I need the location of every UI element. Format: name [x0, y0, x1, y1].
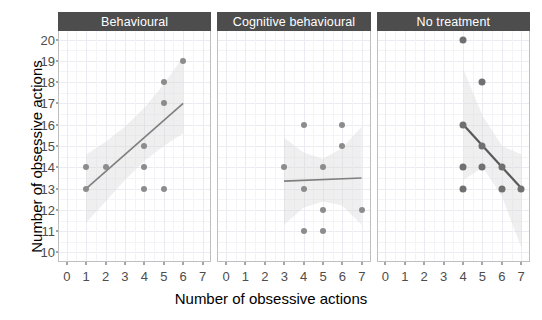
x-tick-label: 3	[121, 269, 128, 284]
facet-strip-label: No treatment	[377, 12, 530, 31]
x-tick-mark	[443, 262, 444, 265]
y-axis: 1011121314151617181920	[22, 0, 55, 320]
data-point	[518, 185, 525, 192]
y-tick-label: 15	[41, 140, 55, 153]
data-point	[359, 207, 365, 213]
x-axis-3: 01234567	[377, 262, 530, 284]
facet-strip-label: Behavioural	[58, 12, 211, 31]
x-tick-label: 4	[141, 269, 148, 284]
regression-line	[378, 31, 529, 261]
data-point	[180, 58, 186, 64]
x-tick-mark	[66, 262, 67, 265]
data-point	[460, 185, 467, 192]
x-tick-label: 2	[102, 269, 109, 284]
data-point	[301, 228, 307, 234]
y-tick-label: 17	[41, 97, 55, 110]
plot-area	[217, 31, 370, 262]
x-tick-label: 5	[319, 269, 326, 284]
data-point	[103, 164, 109, 170]
data-point	[479, 164, 486, 171]
x-tick-label: 7	[518, 269, 525, 284]
x-tick-mark	[124, 262, 125, 265]
y-tick-label: 11	[42, 225, 56, 238]
facet-strip-label: Cognitive behavioural	[217, 12, 370, 31]
x-tick-label: 7	[358, 269, 365, 284]
y-tick-label: 12	[41, 203, 55, 216]
data-point	[141, 143, 147, 149]
regression-line	[218, 31, 369, 261]
x-tick-mark	[264, 262, 265, 265]
x-tick-label: 2	[421, 269, 428, 284]
x-tick-mark	[323, 262, 324, 265]
data-point	[161, 79, 167, 85]
data-point	[339, 122, 345, 128]
facet-panels: BehaviouralCognitive behaviouralNo treat…	[58, 12, 530, 262]
x-tick-mark	[385, 262, 386, 265]
data-point	[479, 79, 486, 86]
x-axis-title: Number of obsessive actions	[0, 290, 542, 307]
x-tick-label: 1	[401, 269, 408, 284]
y-tick-label: 16	[41, 118, 55, 131]
x-tick-label: 4	[300, 269, 307, 284]
x-tick-mark	[245, 262, 246, 265]
x-tick-mark	[183, 262, 184, 265]
facet-panel-2: Cognitive behavioural	[217, 12, 370, 262]
facet-panel-1: Behavioural	[58, 12, 211, 262]
x-tick-label: 5	[479, 269, 486, 284]
x-tick-mark	[521, 262, 522, 265]
y-tick-label: 20	[41, 33, 55, 46]
y-tick-label: 19	[41, 54, 55, 67]
x-tick-label: 5	[160, 269, 167, 284]
x-tick-mark	[202, 262, 203, 265]
y-tick-label: 14	[41, 161, 55, 174]
x-tick-mark	[361, 262, 362, 265]
x-tick-label: 4	[459, 269, 466, 284]
x-tick-mark	[144, 262, 145, 265]
x-axis-1: 01234567	[58, 262, 211, 284]
x-tick-label: 6	[180, 269, 187, 284]
x-tick-mark	[303, 262, 304, 265]
x-tick-mark	[342, 262, 343, 265]
x-tick-label: 1	[242, 269, 249, 284]
x-tick-label: 2	[261, 269, 268, 284]
data-point	[479, 143, 486, 150]
data-point	[339, 143, 345, 149]
data-point	[460, 36, 467, 43]
regression-line	[59, 31, 210, 261]
x-tick-label: 0	[222, 269, 229, 284]
data-point	[320, 228, 326, 234]
data-point	[460, 164, 467, 171]
y-tick-label: 18	[41, 76, 55, 89]
x-tick-label: 6	[339, 269, 346, 284]
y-tick-label: 10	[41, 246, 55, 259]
x-tick-mark	[163, 262, 164, 265]
data-point	[498, 185, 505, 192]
x-tick-label: 1	[83, 269, 90, 284]
x-tick-mark	[105, 262, 106, 265]
x-axis-2: 01234567	[217, 262, 370, 284]
data-point	[498, 164, 505, 171]
x-tick-mark	[86, 262, 87, 265]
data-point	[301, 122, 307, 128]
x-tick-label: 0	[63, 269, 70, 284]
x-tick-label: 6	[498, 269, 505, 284]
x-tick-label: 3	[440, 269, 447, 284]
x-tick-label: 0	[382, 269, 389, 284]
x-tick-mark	[463, 262, 464, 265]
x-tick-label: 3	[281, 269, 288, 284]
x-tick-label: 7	[199, 269, 206, 284]
x-tick-mark	[482, 262, 483, 265]
chart-figure: Number of obsessive actions Number of ob…	[0, 0, 542, 320]
data-point	[141, 164, 147, 170]
y-tick-label: 13	[41, 182, 55, 195]
data-point	[301, 186, 307, 192]
x-tick-mark	[424, 262, 425, 265]
data-point	[281, 164, 287, 170]
x-tick-mark	[404, 262, 405, 265]
data-point	[141, 186, 147, 192]
x-tick-mark	[284, 262, 285, 265]
x-tick-mark	[501, 262, 502, 265]
x-tick-mark	[226, 262, 227, 265]
data-point	[161, 100, 167, 106]
facet-panel-3: No treatment	[377, 12, 530, 262]
